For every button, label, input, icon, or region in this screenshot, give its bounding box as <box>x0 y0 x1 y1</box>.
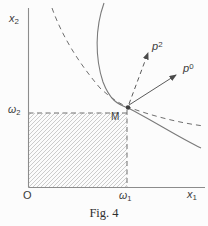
p2-label: p2 <box>152 41 163 52</box>
endowment-rectangle <box>29 113 128 188</box>
omega1-label: ω1 <box>119 190 131 202</box>
x-axis-label: x1 <box>187 189 197 202</box>
figure-caption: Fig. 4 <box>0 206 208 221</box>
point-m-label: M <box>111 112 119 122</box>
p0-label: p0 <box>183 63 194 74</box>
omega2-label: ω2 <box>8 104 20 116</box>
p0-arrow <box>129 75 176 105</box>
point-m-marker <box>126 105 130 109</box>
origin-label: O <box>23 190 32 201</box>
figure-4: x2 x1 ω2 ω1 O M p2 p0 Fig. 4 <box>0 0 208 226</box>
y-axis-label: x2 <box>9 13 19 26</box>
p2-arrow <box>129 53 148 104</box>
